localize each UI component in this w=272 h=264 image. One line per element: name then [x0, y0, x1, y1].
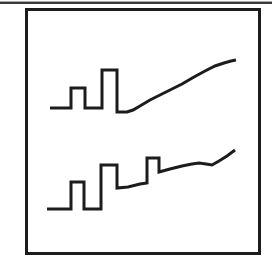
lower-trace-line [47, 150, 235, 209]
upper-trace-line [50, 60, 236, 112]
waveform-svg [0, 0, 272, 264]
